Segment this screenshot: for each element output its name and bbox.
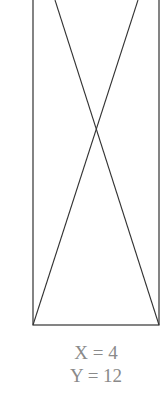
diagonal-line-1 bbox=[55, 0, 159, 325]
diagonal-line-2 bbox=[33, 0, 138, 325]
diagram-canvas bbox=[0, 0, 163, 398]
x-value-label: X = 4 bbox=[33, 342, 159, 364]
rectangle-outline bbox=[33, 0, 159, 325]
y-value-label: Y = 12 bbox=[33, 365, 159, 387]
